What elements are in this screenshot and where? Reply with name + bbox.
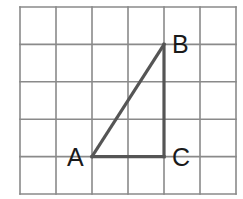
vertex-label-b: B bbox=[172, 30, 189, 58]
diagram-canvas: A B C bbox=[0, 0, 243, 199]
vertex-label-a: A bbox=[67, 143, 84, 171]
vertex-label-c: C bbox=[172, 143, 190, 171]
grid-diagram: A B C bbox=[0, 0, 243, 199]
